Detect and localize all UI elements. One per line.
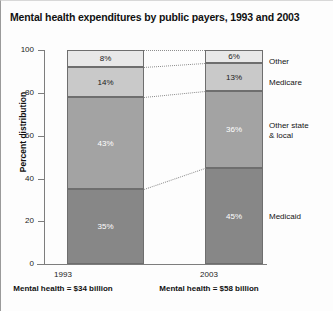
legend-label-other-state-local: Other state & local: [269, 121, 309, 140]
y-tick-0: [38, 264, 44, 265]
y-tick-label-40: 40: [0, 174, 34, 183]
segment-2003-other-state-local[interactable]: 36%: [205, 91, 263, 168]
legend-label-other: Other: [269, 57, 289, 67]
connector-medicare-state-local: [144, 91, 205, 98]
x-axis-line: [37, 264, 267, 265]
segment-2003-other[interactable]: 6%: [205, 50, 263, 63]
segment-1993-other-state-local[interactable]: 43%: [67, 97, 144, 189]
y-tick-label-60: 60: [0, 131, 34, 140]
plot-area: 35% 43% 14% 8% 45% 36% 13% 6%: [44, 50, 263, 264]
y-axis-title: Percent distribution: [18, 84, 28, 180]
x-label-year-1993: 1993: [0, 270, 133, 279]
x-label-year-2003: 2003: [129, 270, 289, 279]
chart-title: Mental health expenditures by public pay…: [10, 11, 328, 23]
connector-top: [144, 50, 205, 51]
y-tick-label-0: 0: [0, 259, 34, 268]
connector-other-medicare: [144, 63, 205, 68]
segment-1993-medicare[interactable]: 14%: [67, 67, 144, 97]
x-group-2003: 2003 Mental health = $58 billion: [129, 270, 289, 293]
connector-state-local-medicaid: [144, 168, 205, 190]
y-tick-label-20: 20: [0, 216, 34, 225]
y-tick-label-100: 100: [0, 45, 34, 54]
x-group-1993: 1993 Mental health = $34 billion: [0, 270, 133, 293]
legend-label-medicare: Medicare: [269, 78, 302, 88]
x-note-1993: Mental health = $34 billion: [0, 284, 133, 293]
segment-1993-other[interactable]: 8%: [67, 50, 144, 67]
segment-1993-medicaid[interactable]: 35%: [67, 189, 144, 264]
y-tick-label-80: 80: [0, 88, 34, 97]
chart-figure: Mental health expenditures by public pay…: [0, 0, 333, 311]
legend-label-medicaid: Medicaid: [269, 212, 301, 222]
x-note-2003: Mental health = $58 billion: [129, 284, 289, 293]
segment-2003-medicaid[interactable]: 45%: [205, 168, 263, 264]
segment-2003-medicare[interactable]: 13%: [205, 63, 263, 91]
